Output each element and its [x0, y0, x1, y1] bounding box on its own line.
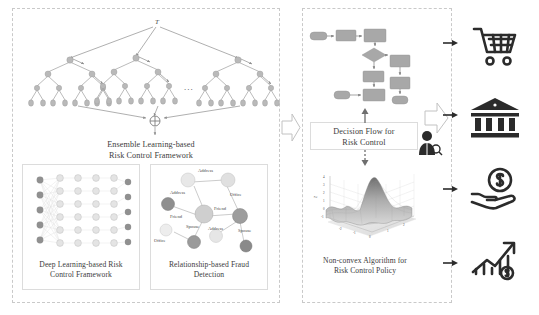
arrow-to-investment — [443, 258, 459, 268]
df-caption-line1: Decision Flow for — [312, 127, 416, 138]
application-icons — [455, 8, 531, 303]
decision-flowchart — [308, 24, 412, 110]
rel-caption-line1: Relationship-based Fraud — [154, 260, 264, 270]
flow-step-6 — [363, 89, 385, 101]
flow-start — [310, 32, 327, 40]
non-convex-caption: Non-convex Algorithm for Risk Control Po… — [306, 256, 424, 275]
growth-chart-dollar-icon — [469, 236, 521, 282]
flow-step-5 — [390, 77, 410, 89]
non-convex-surface-plot: 432 10-1 -2-10 12 Z — [312, 166, 420, 248]
bank-icon — [469, 94, 521, 140]
ensemble-caption-line1: Ensemble Learning-based — [86, 140, 216, 151]
graph-nodes — [160, 173, 252, 252]
svg-text:Address: Address — [170, 190, 185, 195]
neural-network-diagram — [30, 172, 132, 256]
svg-text:Address: Address — [198, 168, 213, 173]
flow-step-4 — [363, 71, 384, 82]
flow-end — [392, 96, 408, 104]
relationship-caption: Relationship-based Fraud Detection — [154, 260, 264, 279]
flow-step-2 — [364, 29, 386, 42]
svg-text:Spouse: Spouse — [238, 228, 251, 233]
tree-ellipsis: ... — [184, 82, 194, 92]
svg-text:2: 2 — [323, 191, 325, 195]
svg-text:4: 4 — [323, 175, 325, 179]
svg-text:Address: Address — [208, 226, 223, 231]
svg-text:1: 1 — [387, 229, 389, 233]
dl-caption-line1: Deep Learning-based Risk — [26, 260, 136, 270]
decision-flow-caption: Decision Flow for Risk Control — [312, 127, 416, 148]
hand-coin-icon — [469, 166, 521, 212]
ensemble-tree-forest: T — [18, 14, 274, 124]
svg-text:2: 2 — [403, 223, 405, 227]
svg-text:0: 0 — [323, 207, 325, 211]
svg-text:-1: -1 — [321, 215, 324, 219]
nn-hidden-layers — [57, 175, 118, 247]
nc-caption-line2: Risk Control Policy — [306, 266, 424, 276]
ensemble-caption: Ensemble Learning-based Risk Control Fra… — [86, 140, 216, 161]
flow-decision — [362, 48, 386, 62]
svg-text:Spouse: Spouse — [186, 224, 199, 229]
left-to-right-arrow — [281, 112, 301, 144]
arrow-to-lending — [443, 184, 459, 194]
arrow-to-banking — [443, 110, 459, 120]
nn-input-layer — [37, 177, 44, 244]
svg-text:Friend: Friend — [214, 206, 227, 211]
ensemble-caption-line2: Risk Control Framework — [86, 151, 216, 162]
flow-up-arrow — [360, 108, 370, 124]
flow-step-3 — [390, 55, 410, 67]
rel-caption-line2: Detection — [154, 270, 264, 280]
svg-text:Z: Z — [314, 196, 318, 198]
svg-text:-2: -2 — [339, 227, 342, 231]
svg-text:1: 1 — [323, 199, 325, 203]
flow-step-1 — [336, 30, 356, 41]
df-caption-line2: Risk Control — [312, 138, 416, 149]
nc-caption-line1: Non-convex Algorithm for — [306, 256, 424, 266]
nn-output-layer — [125, 179, 131, 245]
svg-text:Office: Office — [154, 238, 166, 243]
svg-text:Friend: Friend — [170, 214, 183, 219]
svg-text:3: 3 — [323, 183, 325, 187]
shopping-cart-icon — [469, 22, 521, 68]
svg-text:-1: -1 — [353, 231, 356, 235]
dl-caption-line2: Control Framework — [26, 270, 136, 280]
deep-learning-caption: Deep Learning-based Risk Control Framewo… — [26, 260, 136, 279]
flow-input — [334, 91, 350, 99]
arrow-to-ecommerce — [443, 38, 459, 48]
svg-text:Office: Office — [230, 192, 242, 197]
tree-root-label: T — [155, 18, 160, 26]
flow-down-dotted-arrow — [360, 150, 370, 166]
fraud-relationship-graph: Address Address Office Friend Friend Spo… — [152, 166, 266, 258]
